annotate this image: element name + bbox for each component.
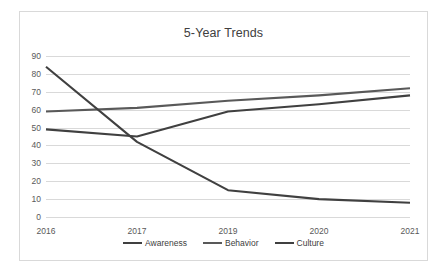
y-axis-tick-label: 80	[32, 69, 41, 79]
y-axis-tick-label: 10	[32, 194, 41, 204]
y-axis-tick-label: 20	[32, 176, 41, 186]
legend-item-behavior[interactable]: Behavior	[203, 238, 259, 248]
plot-area: 0102030405060708090 20162017201920202021	[46, 56, 410, 217]
y-axis-tick-label: 90	[32, 51, 41, 61]
legend-label: Culture	[297, 238, 324, 248]
x-axis-tick-label: 2021	[401, 226, 420, 236]
legend-label: Behavior	[225, 238, 259, 248]
x-axis-tick-label: 2016	[37, 226, 56, 236]
y-axis-tick-label: 50	[32, 123, 41, 133]
chart-container: 5-Year Trends 0102030405060708090 201620…	[19, 11, 428, 261]
chart-legend: AwarenessBehaviorCulture	[20, 238, 427, 248]
series-line-culture	[46, 67, 410, 203]
chart-title: 5-Year Trends	[20, 26, 427, 40]
legend-swatch-behavior-icon	[203, 242, 222, 244]
legend-item-culture[interactable]: Culture	[275, 238, 324, 248]
y-axis-tick-label: 40	[32, 140, 41, 150]
x-axis-tick-label: 2020	[310, 226, 329, 236]
y-axis-tick-label: 60	[32, 105, 41, 115]
x-axis-tick-label: 2017	[128, 226, 147, 236]
legend-label: Awareness	[145, 238, 187, 248]
y-axis-tick-label: 70	[32, 87, 41, 97]
y-axis-tick-label: 30	[32, 158, 41, 168]
legend-item-awareness[interactable]: Awareness	[123, 238, 187, 248]
legend-swatch-awareness-icon	[123, 242, 142, 244]
x-axis-tick-label: 2019	[219, 226, 238, 236]
gridline	[46, 217, 410, 218]
legend-swatch-culture-icon	[275, 242, 294, 244]
y-axis-tick-label: 0	[36, 212, 41, 222]
series-lines	[46, 56, 410, 217]
